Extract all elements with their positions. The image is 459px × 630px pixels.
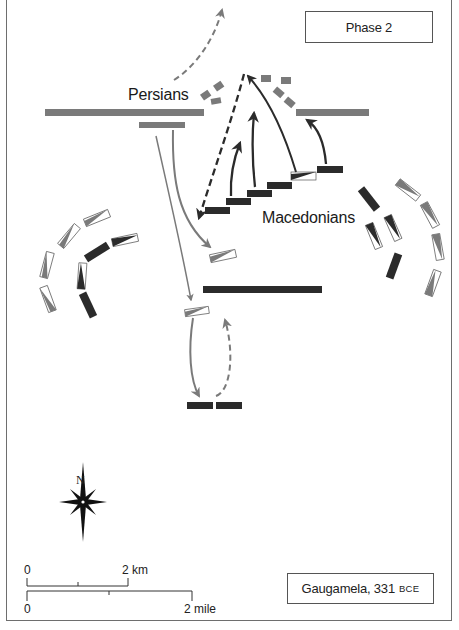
right-flank-persian-units bbox=[395, 179, 444, 297]
persians-label: Persians bbox=[128, 86, 189, 104]
persian-block bbox=[284, 96, 296, 108]
battle-map bbox=[0, 0, 459, 630]
scale-bar-km bbox=[27, 578, 128, 586]
persian-block bbox=[281, 77, 291, 84]
scale-km-end-label: 2 km bbox=[122, 563, 148, 577]
macedonian-reserve-unit bbox=[187, 402, 213, 409]
caption-era: BCE bbox=[399, 583, 419, 594]
scale-mile-start-label: 0 bbox=[24, 602, 31, 616]
macedonians-label: Macedonians bbox=[262, 209, 355, 227]
macedonian-advance-arrow bbox=[253, 113, 255, 187]
compass-north-label: N bbox=[76, 473, 85, 488]
scale-bar bbox=[27, 578, 192, 601]
right-flank-macedonian-units bbox=[358, 186, 402, 279]
persian-retreat-arrow bbox=[174, 10, 222, 80]
map-caption-box: Gaugamela, 331 BCE bbox=[287, 573, 434, 604]
macedonian-wedge-unit bbox=[291, 172, 316, 180]
left-flank-persian-arc bbox=[40, 209, 111, 312]
persian-block bbox=[200, 90, 211, 101]
macedonian-echelon-unit bbox=[205, 207, 230, 214]
persian-curved-arrow bbox=[173, 130, 210, 247]
macedonian-advance-arrow bbox=[307, 120, 326, 164]
persian-units bbox=[45, 75, 369, 128]
persian-loop-arrow bbox=[190, 318, 199, 396]
macedonian-dashed-return-arrow bbox=[216, 320, 230, 396]
macedonian-echelon-unit bbox=[267, 182, 292, 189]
macedonian-echelon-unit bbox=[317, 166, 343, 173]
caption-name: Gaugamela, 331 bbox=[302, 581, 395, 596]
persian-second-line bbox=[139, 122, 185, 128]
persian-block bbox=[211, 97, 222, 105]
scale-mile-end-label: 2 mile bbox=[184, 602, 216, 616]
scale-km-start-label: 0 bbox=[24, 563, 31, 577]
macedonian-echelon-unit bbox=[247, 190, 272, 197]
macedonian-echelon-unit bbox=[226, 198, 251, 205]
macedonian-charge-arrow bbox=[248, 76, 296, 172]
persian-block bbox=[261, 75, 271, 82]
phase-label: Phase 2 bbox=[346, 20, 392, 35]
macedonian-rear-line bbox=[203, 286, 322, 293]
phase-label-box: Phase 2 bbox=[305, 11, 433, 43]
persian-block bbox=[213, 81, 224, 92]
scale-bar-mile bbox=[27, 591, 192, 601]
persian-block bbox=[273, 86, 285, 98]
persian-main-line-left bbox=[45, 109, 204, 116]
macedonian-reserve-unit bbox=[216, 402, 242, 409]
macedonian-advance-arrow bbox=[231, 143, 240, 196]
left-flank-macedonian-arc bbox=[77, 233, 138, 318]
mixed-units bbox=[185, 249, 237, 316]
persian-main-line-right bbox=[296, 109, 369, 116]
macedonian-units bbox=[187, 166, 343, 409]
